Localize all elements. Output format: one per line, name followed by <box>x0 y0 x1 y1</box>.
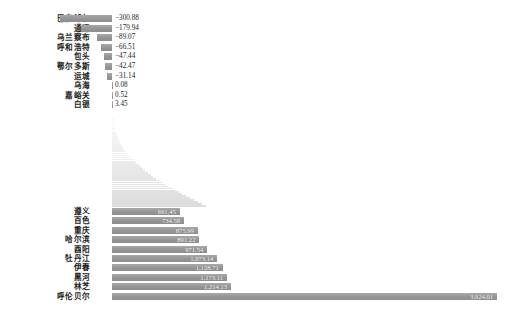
bar-track: −300.88 <box>96 14 517 23</box>
bar-value-label: −179.94 <box>115 24 139 33</box>
bar-row: 伊春1,128.71 <box>0 263 517 272</box>
bar <box>104 53 112 60</box>
bar-value-label: 891.22 <box>177 235 195 244</box>
bar-row: 通辽−179.94 <box>0 24 517 33</box>
bar-track: 734.58 <box>96 216 517 225</box>
bar-row: 乌海0.08 <box>0 81 517 90</box>
bar-category-label: 嘉峪关 <box>0 91 96 100</box>
bar-row: 黑河1,173.11 <box>0 273 517 282</box>
bar-track: 1,073.14 <box>96 254 517 263</box>
bar-category-label: 哈尔滨 <box>0 235 96 244</box>
bar-value-label: 1,073.14 <box>190 254 213 263</box>
bar <box>112 101 113 108</box>
elided-bar <box>112 199 194 201</box>
bar-category-label: 黑河 <box>0 273 96 282</box>
elided-bar <box>112 191 179 193</box>
bar-value-label: −66.51 <box>115 43 135 52</box>
bar-row: 牡丹江1,073.14 <box>0 254 517 263</box>
elided-bar <box>112 201 198 203</box>
bar-value-label: 1,128.71 <box>196 263 219 272</box>
elided-bar <box>112 141 120 143</box>
bar-row: 包头−47.44 <box>0 52 517 61</box>
bar-value-label: 0.08 <box>115 81 128 90</box>
bar-track: 875.99 <box>96 226 517 235</box>
elided-bar <box>112 193 182 195</box>
bar-row: 乌兰察布−89.07 <box>0 33 517 42</box>
bar-row: 白银3.45 <box>0 100 517 109</box>
bar-value-label: 875.99 <box>176 226 194 235</box>
bar-row: 巴彦淖尔−300.88 <box>0 14 517 23</box>
bar-track: 1,214.13 <box>96 282 517 291</box>
elided-bar <box>112 190 175 192</box>
bar-row: 林芝1,214.13 <box>0 282 517 291</box>
bar-row: 酉阳971.54 <box>0 245 517 254</box>
elided-bar <box>112 155 129 157</box>
elided-bar <box>112 120 114 122</box>
bar-value-label: 3,924.01 <box>470 292 493 301</box>
bar-track: 0.52 <box>96 91 517 100</box>
elided-bar <box>112 170 145 172</box>
bar-row: 呼和浩特−66.51 <box>0 43 517 52</box>
elided-bar <box>112 157 131 159</box>
bar <box>112 293 497 300</box>
bar-track: −31.14 <box>96 72 517 81</box>
elided-bar <box>112 164 139 166</box>
elided-bar <box>112 161 134 163</box>
bar-value-label: −89.07 <box>115 33 135 42</box>
bar-category-label: 百色 <box>0 216 96 225</box>
elided-bar <box>112 174 151 176</box>
bar-row: 运城−31.14 <box>0 72 517 81</box>
bar-value-label: 3.45 <box>115 100 128 109</box>
bar-value-label: −300.88 <box>115 14 139 23</box>
elided-bar <box>112 130 115 132</box>
elided-bar <box>112 132 116 134</box>
bar <box>105 63 112 70</box>
bar <box>60 15 112 22</box>
bar-track: −42.47 <box>96 62 517 71</box>
elided-bar <box>112 203 202 205</box>
bar <box>101 44 112 51</box>
bar-value-label: 734.58 <box>162 216 180 225</box>
bar-value-label: 1,214.13 <box>204 282 227 291</box>
elided-bar <box>112 153 127 155</box>
elided-bar <box>112 188 172 190</box>
bar-category-label: 呼伦贝尔 <box>0 292 96 301</box>
elided-bar <box>112 186 168 188</box>
elided-bar <box>112 180 159 182</box>
bar-value-label: 1,173.11 <box>200 273 223 282</box>
elided-bar <box>112 128 115 130</box>
elided-bar <box>112 168 143 170</box>
elided-bar <box>112 159 133 161</box>
bar-category-label: 包头 <box>0 52 96 61</box>
bar-category-label: 运城 <box>0 72 96 81</box>
bar <box>107 73 112 80</box>
elided-bar <box>112 126 115 128</box>
bar <box>112 82 113 89</box>
bar-track: 1,128.71 <box>96 263 517 272</box>
bar <box>112 92 113 99</box>
bar-track: 3.45 <box>96 100 517 109</box>
elided-bar <box>112 195 186 197</box>
bar-track: 0.08 <box>96 81 517 90</box>
bar-category-label: 呼和浩特 <box>0 43 96 52</box>
elided-bar <box>112 166 141 168</box>
bar-track: 1,173.11 <box>96 273 517 282</box>
elided-bar <box>112 147 123 149</box>
bar-row: 哈尔滨891.22 <box>0 235 517 244</box>
bar-row: 遵义691.45 <box>0 207 517 216</box>
bar-track: −66.51 <box>96 43 517 52</box>
elided-bar <box>112 149 124 151</box>
bar-row: 鄂尔多斯−42.47 <box>0 62 517 71</box>
bar-row: 百色734.58 <box>0 216 517 225</box>
bar-track: −47.44 <box>96 52 517 61</box>
elided-bar <box>112 182 162 184</box>
bar-chart: 巴彦淖尔−300.88通辽−179.94乌兰察布−89.07呼和浩特−66.51… <box>0 0 517 314</box>
elided-bar <box>112 184 165 186</box>
bar-value-label: −47.44 <box>115 52 135 61</box>
bar-category-label: 林芝 <box>0 282 96 291</box>
bar-category-label: 白银 <box>0 100 96 109</box>
bar-track: −179.94 <box>96 24 517 33</box>
elided-bar <box>112 133 116 135</box>
bar-value-label: 691.45 <box>158 207 176 216</box>
elided-bar <box>112 139 119 141</box>
